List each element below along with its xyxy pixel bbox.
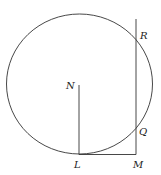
circle xyxy=(7,14,153,154)
label-n: N xyxy=(65,80,76,91)
label-m: M xyxy=(132,159,144,170)
label-l: L xyxy=(73,159,81,170)
geometry-diagram: R N Q L M xyxy=(0,0,161,175)
label-r: R xyxy=(139,30,148,41)
label-q: Q xyxy=(139,126,147,137)
